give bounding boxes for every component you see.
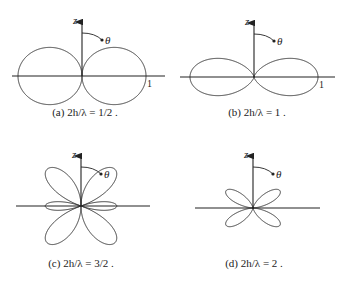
theta-label: θ: [277, 35, 283, 47]
theta-arrowhead-icon: [272, 39, 275, 42]
theta-arc-icon: [81, 167, 101, 174]
radiation-pattern-figure: zθ1 zθ1 zθ zθ: [0, 0, 351, 283]
z-axis-label: z: [243, 148, 249, 160]
z-axis-label: z: [72, 14, 78, 26]
panel-d-pattern: zθ: [195, 148, 320, 227]
theta-arc-icon: [254, 34, 274, 41]
theta-label: θ: [276, 168, 282, 180]
radial-tick-label: 1: [147, 78, 152, 89]
panel-b-pattern: zθ1: [180, 15, 335, 96]
theta-label: θ: [105, 34, 111, 46]
caption-c: (c) 2h/λ = 3/2 .: [48, 257, 114, 269]
theta-arc-icon: [82, 33, 102, 40]
radial-tick-label: 1: [319, 79, 324, 90]
panel-c-pattern: zθ: [16, 148, 150, 245]
theta-label: θ: [104, 168, 110, 180]
z-axis-label: z: [244, 15, 250, 27]
theta-arc-icon: [253, 167, 273, 174]
theta-arrowhead-icon: [271, 172, 274, 175]
z-axis-label: z: [71, 148, 77, 160]
caption-a: (a) 2h/λ = 1/2 .: [52, 106, 118, 118]
theta-arrowhead-icon: [100, 38, 103, 41]
panel-a-pattern: zθ1: [12, 14, 165, 105]
theta-arrowhead-icon: [99, 172, 102, 175]
caption-b: (b) 2h/λ = 1 .: [228, 106, 286, 118]
caption-d: (d) 2h/λ = 2 .: [225, 257, 283, 269]
